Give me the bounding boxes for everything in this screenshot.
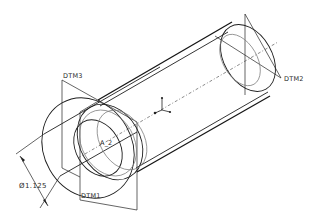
tube-body	[44, 22, 270, 176]
diameter-value: Ø1.125	[19, 182, 47, 190]
isometric-drawing: A_2 Ø1.125 DTM3 DTM1 DTM2	[0, 0, 317, 224]
dtm2-label: DTM2	[284, 75, 304, 83]
dtm1-label: DTM1	[81, 192, 101, 200]
cad-drawing-canvas: A_2 Ø1.125 DTM3 DTM1 DTM2	[0, 0, 317, 224]
axis-label: A_2	[100, 139, 112, 147]
dtm3-label: DTM3	[63, 72, 83, 80]
diameter-dimension[interactable]	[16, 134, 60, 208]
